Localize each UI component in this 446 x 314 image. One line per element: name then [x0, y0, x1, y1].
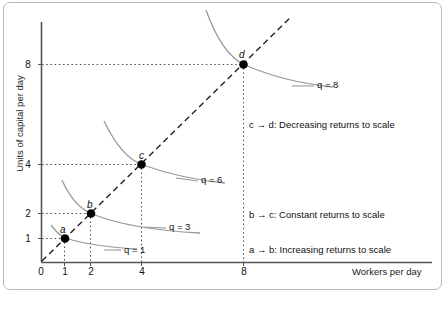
point-label-d: d	[239, 49, 245, 60]
isoquant-curve-q8	[206, 10, 333, 87]
isoquant-returns-to-scale-figure: Units of capital per day Workers per day…	[0, 0, 446, 314]
y-tick-label-4: 4	[20, 159, 36, 170]
y-tick-label-1: 1	[20, 233, 36, 244]
data-point-d	[239, 60, 248, 69]
guide-lines-vertical	[65, 64, 244, 262]
y-tick-label-8: 8	[20, 59, 36, 70]
x-tick-label-1: 1	[57, 266, 73, 277]
x-tick-label-2: 2	[83, 266, 99, 277]
isoquant-label-q3: q = 3	[169, 221, 190, 232]
isoquant-label-q1: q = 1	[124, 244, 145, 255]
x-tick-label-8: 8	[236, 266, 252, 277]
y-tick-label-2: 2	[20, 208, 36, 219]
point-label-c: c	[139, 150, 144, 161]
data-point-c	[137, 160, 146, 169]
point-label-a: a	[60, 224, 66, 235]
data-point-b	[87, 209, 96, 218]
annotation-increasing-returns: a → b: Increasing returns to scale	[249, 244, 391, 255]
x-axis-title: Workers per day	[352, 266, 422, 277]
expansion-path-ray	[42, 16, 292, 261]
x-tick-label-0: 0	[33, 266, 49, 277]
point-label-b: b	[87, 199, 93, 210]
isoquant-label-q8: q = 8	[317, 79, 338, 90]
annotation-decreasing-returns: c → d: Decreasing returns to scale	[249, 119, 395, 130]
x-tick-label-4: 4	[134, 266, 150, 277]
annotation-constant-returns: b → c: Constant returns to scale	[249, 209, 385, 220]
isoquant-label-q6: q = 6	[201, 174, 222, 185]
data-point-a	[61, 234, 70, 243]
